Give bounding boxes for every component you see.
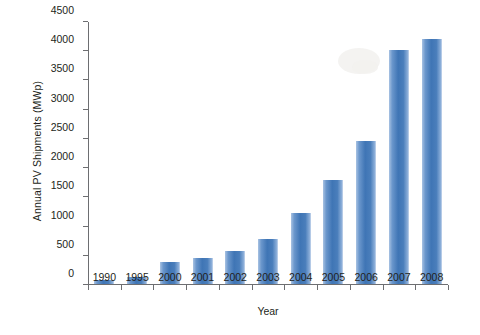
x-axis-tick — [219, 285, 220, 290]
y-axis-tick: 2500 — [83, 138, 88, 139]
x-axis-tick — [448, 285, 449, 290]
bar — [389, 50, 409, 284]
x-axis-tick-label: 2004 — [289, 271, 312, 283]
y-axis-tick: 500 — [83, 255, 88, 256]
x-axis-tick-label: 1990 — [93, 271, 116, 283]
y-axis-line — [88, 22, 89, 285]
y-axis-tick: 4000 — [83, 50, 88, 51]
x-axis-tick-label: 1995 — [125, 271, 148, 283]
y-axis-tick-label: 3000 — [51, 92, 74, 104]
x-axis-tick — [252, 285, 253, 290]
y-axis-tick-label: 1500 — [51, 179, 74, 191]
x-axis-tick-label: 2005 — [322, 271, 345, 283]
x-axis-tick-label: 2008 — [420, 271, 443, 283]
y-axis-tick-label: 500 — [56, 238, 74, 250]
y-axis-tick-label: 0 — [68, 267, 74, 279]
x-axis-tick — [383, 285, 384, 290]
y-axis-tick-label: 2500 — [51, 121, 74, 133]
y-axis-tick: 3000 — [83, 109, 88, 110]
bar — [323, 180, 343, 284]
y-axis-tick-label: 4500 — [51, 4, 74, 16]
x-axis-tick-label: 2000 — [158, 271, 181, 283]
y-axis-tick-label: 3500 — [51, 62, 74, 74]
x-axis-tick-label: 2003 — [256, 271, 279, 283]
x-axis-title: Year — [88, 305, 448, 317]
bar — [356, 141, 376, 284]
x-axis-tick — [121, 285, 122, 290]
x-axis-tick — [415, 285, 416, 290]
x-axis-line — [88, 284, 448, 285]
y-axis-tick: 4500 — [83, 21, 88, 22]
x-axis-tick — [153, 285, 154, 290]
x-axis-tick-label: 2002 — [224, 271, 247, 283]
bar-chart: Annual PV Shipments (MWp) 05001000150020… — [0, 0, 480, 335]
x-axis-tick-label: 2007 — [387, 271, 410, 283]
y-axis-tick: 2000 — [83, 167, 88, 168]
x-axis-tick — [186, 285, 187, 290]
plot-area: 050010001500200025003000350040004500 — [88, 22, 448, 285]
x-axis-tick — [88, 285, 89, 290]
x-axis-tick — [350, 285, 351, 290]
y-axis-tick: 1000 — [83, 226, 88, 227]
x-axis-tick-label: 2006 — [354, 271, 377, 283]
x-axis-tick — [317, 285, 318, 290]
y-axis-tick-label: 2000 — [51, 150, 74, 162]
y-axis-tick-label: 1000 — [51, 209, 74, 221]
x-axis-tick-label: 2001 — [191, 271, 214, 283]
y-axis-title: Annual PV Shipments (MWp) — [31, 36, 43, 266]
x-axis-tick — [284, 285, 285, 290]
y-axis-tick: 1500 — [83, 196, 88, 197]
bar — [422, 39, 442, 284]
y-axis-tick-label: 4000 — [51, 33, 74, 45]
y-axis-tick: 3500 — [83, 79, 88, 80]
